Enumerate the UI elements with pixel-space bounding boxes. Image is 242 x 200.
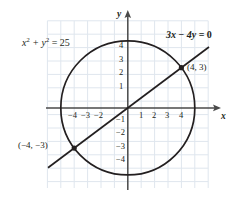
y-axis [125, 10, 132, 190]
x-tick-neg2: −2 [94, 111, 103, 120]
y-axis-label: y [117, 10, 121, 20]
y-tick-2: 2 [119, 68, 123, 77]
line-eq-b: 4y [187, 29, 196, 40]
graph-figure: x2 + y2 = 25 3x − 4y = 0 (4, 3) (−4, −3)… [0, 0, 242, 200]
line-eq-rhs: = 0 [196, 29, 212, 40]
circle-equation-label: x2 + y2 = 25 [22, 38, 70, 48]
point-label-neg4-neg3: (−4, −3) [18, 141, 48, 150]
point-marker-neg4-neg3 [72, 146, 77, 151]
x-tick-neg3: −3 [81, 111, 90, 120]
circle-eq-y: + y [30, 37, 46, 48]
line-eq-a: 3x [166, 29, 176, 40]
x-tick-4: 4 [179, 111, 183, 120]
y-tick-neg2: −2 [116, 128, 125, 137]
y-tick-neg4: −4 [116, 155, 125, 164]
line-eq-op: − [176, 29, 187, 40]
line-equation-label: 3x − 4y = 0 [166, 30, 212, 40]
y-tick-1: 1 [119, 82, 123, 91]
x-axis-label: x [221, 112, 226, 122]
x-tick-2: 2 [152, 111, 156, 120]
circle-eq-rhs: = 25 [49, 37, 70, 48]
point-label-4-3: (4, 3) [187, 63, 207, 72]
point-marker-4-3 [179, 65, 184, 70]
x-tick-neg4: −4 [68, 111, 77, 120]
y-tick-neg3: −3 [116, 142, 125, 151]
y-tick-3: 3 [119, 55, 123, 64]
y-tick-neg1: −1 [116, 115, 125, 124]
x-tick-1: 1 [139, 111, 143, 120]
y-tick-4: 4 [119, 41, 123, 50]
x-tick-3: 3 [165, 111, 169, 120]
